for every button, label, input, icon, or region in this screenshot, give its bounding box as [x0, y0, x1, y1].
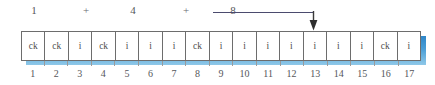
tick-7 — [163, 61, 187, 66]
tick-9 — [210, 61, 234, 66]
tick-17 — [399, 61, 422, 66]
cell-13[interactable]: i — [304, 32, 327, 60]
tick-11 — [257, 61, 281, 66]
index-label-3: 3 — [68, 67, 92, 83]
cell-16[interactable]: ck — [374, 32, 397, 60]
cell-15[interactable]: i — [351, 32, 374, 60]
cell-strip: ckckickiiickiiiiiiicki — [21, 31, 421, 61]
index-label-5: 5 — [115, 67, 139, 83]
index-label-6: 6 — [139, 67, 163, 83]
index-label-15: 15 — [350, 67, 374, 83]
down-arrow-icon — [309, 11, 318, 31]
tick-5 — [115, 61, 139, 66]
index-label-12: 12 — [280, 67, 304, 83]
index-label-14: 14 — [327, 67, 351, 83]
cell-11[interactable]: i — [257, 32, 280, 60]
tick-1 — [21, 61, 45, 66]
index-label-8: 8 — [186, 67, 210, 83]
cell-10[interactable]: i — [233, 32, 256, 60]
tick-10 — [233, 61, 257, 66]
cell-8[interactable]: ck — [186, 32, 209, 60]
tick-8 — [186, 61, 210, 66]
index-ruler — [21, 61, 421, 66]
index-label-7: 7 — [162, 67, 186, 83]
index-label-2: 2 — [45, 67, 69, 83]
tick-12 — [281, 61, 305, 66]
index-label-10: 10 — [233, 67, 257, 83]
tick-6 — [139, 61, 163, 66]
cell-4[interactable]: ck — [92, 32, 115, 60]
cell-9[interactable]: i — [210, 32, 233, 60]
index-label-4: 4 — [92, 67, 116, 83]
index-label-9: 9 — [209, 67, 233, 83]
cell-5[interactable]: i — [116, 32, 139, 60]
cell-3[interactable]: i — [69, 32, 92, 60]
pointer-group — [0, 0, 435, 32]
cell-12[interactable]: i — [280, 32, 303, 60]
tick-13 — [304, 61, 328, 66]
pointer-line — [213, 12, 313, 13]
index-label-13: 13 — [303, 67, 327, 83]
tick-3 — [68, 61, 92, 66]
index-label-16: 16 — [374, 67, 398, 83]
index-number-row: 1234567891011121314151617 — [21, 67, 421, 83]
index-label-11: 11 — [256, 67, 280, 83]
tick-14 — [328, 61, 352, 66]
cell-7[interactable]: i — [163, 32, 186, 60]
cell-17[interactable]: i — [398, 32, 420, 60]
index-label-1: 1 — [21, 67, 45, 83]
cell-14[interactable]: i — [327, 32, 350, 60]
tick-16 — [375, 61, 399, 66]
tick-2 — [45, 61, 69, 66]
cell-1[interactable]: ck — [22, 32, 45, 60]
tick-4 — [92, 61, 116, 66]
index-label-17: 17 — [398, 67, 422, 83]
tick-15 — [351, 61, 375, 66]
cell-2[interactable]: ck — [45, 32, 68, 60]
cell-6[interactable]: i — [139, 32, 162, 60]
